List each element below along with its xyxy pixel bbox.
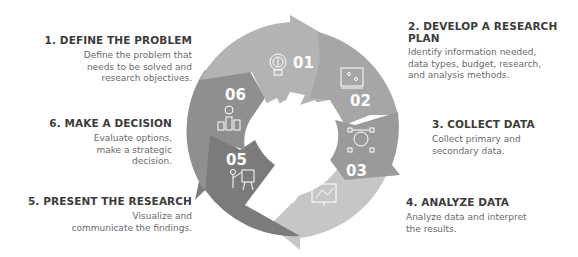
step-6-desc-line: make a strategic (94, 145, 172, 157)
step-4-description: Analyze data and interpret the results. (406, 212, 527, 235)
step-2-desc-line: Identify information needed, (408, 47, 541, 59)
step-5-title: 5. PRESENT THE RESEARCH (28, 195, 192, 207)
step-4-title: 4. ANALYZE DATA (406, 196, 509, 208)
step-2-title: 2. DEVELOP A RESEARCH PLAN (408, 20, 557, 44)
step-4-desc-line: Analyze data and interpret (406, 212, 527, 224)
step-number-05: 05 (226, 151, 247, 169)
step-1-description: Define the problem that needs to be solv… (84, 50, 192, 85)
step-number-03: 03 (346, 162, 367, 180)
step-3-desc-line: secondary data. (432, 146, 521, 158)
step-3-description: Collect primary and secondary data. (432, 134, 521, 157)
step-6-description: Evaluate options, make a strategic decis… (94, 133, 172, 168)
step-2-title-line: 2. DEVELOP A RESEARCH (408, 20, 557, 32)
step-3-desc-line: Collect primary and (432, 134, 521, 146)
step-1-desc-line: needs to be solved and (84, 62, 192, 74)
step-6-title: 6. MAKE A DECISION (49, 117, 172, 129)
step-6-desc-line: decision. (94, 156, 172, 168)
step-2-desc-line: data types, budget, research, (408, 59, 541, 71)
center-hub (255, 92, 328, 165)
step-6-desc-line: Evaluate options, (94, 133, 172, 145)
step-number-02: 02 (350, 92, 371, 110)
step-3-title: 3. COLLECT DATA (432, 118, 535, 130)
step-4-desc-line: the results. (406, 224, 527, 236)
step-5-desc-line: communicate the findings. (72, 223, 192, 235)
step-2-desc-line: and analysis methods. (408, 70, 541, 82)
step-number-04: 04 (275, 189, 296, 207)
step-number-01: 01 (293, 54, 314, 72)
step-1-title: 1. DEFINE THE PROBLEM (45, 34, 192, 46)
step-1-desc-line: research objectives. (84, 73, 192, 85)
step-2-title-line: PLAN (408, 32, 557, 44)
step-5-description: Visualize and communicate the findings. (72, 211, 192, 234)
step-number-06: 06 (225, 86, 246, 104)
segment-02 (310, 32, 398, 125)
step-1-desc-line: Define the problem that (84, 50, 192, 62)
step-5-desc-line: Visualize and (72, 211, 192, 223)
step-2-description: Identify information needed, data types,… (408, 47, 541, 82)
